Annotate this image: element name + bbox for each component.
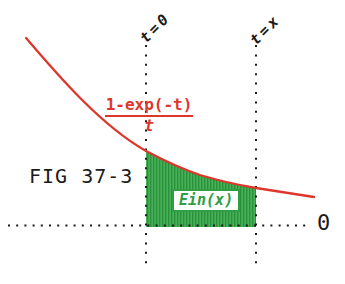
plot-svg [0, 0, 345, 284]
figure-caption: FIG 37-3 [29, 164, 133, 188]
axis-zero-label: 0 [317, 211, 330, 235]
figure-canvas: 1-exp(-t) t FIG 37-3 t=0 t=x Ein(x) 0 [0, 0, 345, 284]
curve-formula-label: 1-exp(-t) t [103, 96, 195, 135]
region-label-ein: Ein(x) [172, 189, 240, 212]
formula-numerator: 1-exp(-t) [103, 96, 195, 114]
formula-denominator: t [103, 117, 195, 135]
